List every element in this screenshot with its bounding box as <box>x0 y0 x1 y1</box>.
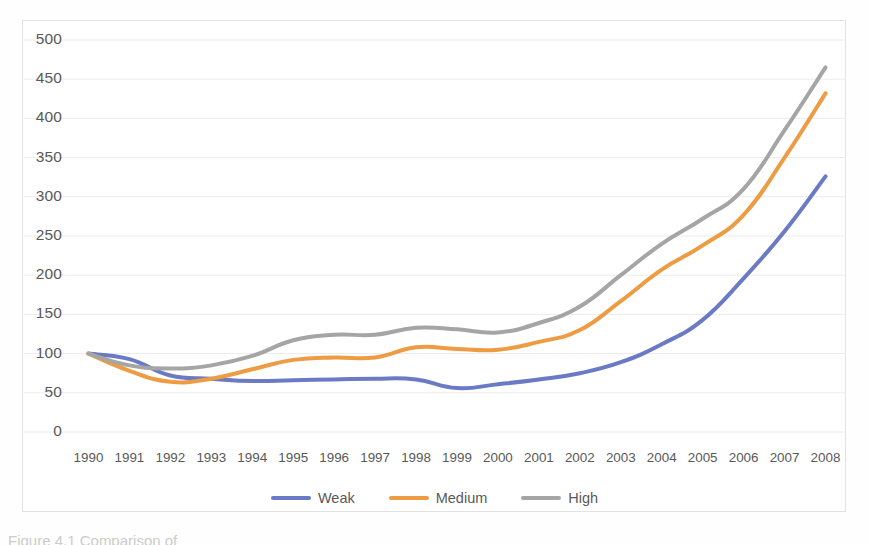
legend-item-high[interactable]: High <box>521 490 598 506</box>
x-tick-label: 2000 <box>476 450 520 465</box>
y-tick-label: 400 <box>18 108 62 126</box>
y-tick-label: 0 <box>18 422 62 440</box>
x-tick-label: 2008 <box>804 450 848 465</box>
x-tick-label: 1999 <box>435 450 479 465</box>
x-tick-label: 1992 <box>148 450 192 465</box>
legend-swatch-icon <box>389 496 429 500</box>
x-tick-label: 2002 <box>558 450 602 465</box>
y-tick-label: 250 <box>18 226 62 244</box>
x-tick-label: 1997 <box>353 450 397 465</box>
x-tick-label: 1996 <box>312 450 356 465</box>
x-tick-label: 1998 <box>394 450 438 465</box>
chart-figure: 050100150200250300350400450500 199019911… <box>0 0 869 545</box>
y-tick-label: 50 <box>18 383 62 401</box>
x-tick-label: 2004 <box>640 450 684 465</box>
y-tick-label: 350 <box>18 148 62 166</box>
y-tick-label: 450 <box>18 69 62 87</box>
figure-caption: Figure 4.1 Comparison of <box>8 532 428 545</box>
y-tick-label: 500 <box>18 30 62 48</box>
y-tick-label: 150 <box>18 304 62 322</box>
chart-plot-frame <box>22 20 846 512</box>
legend-swatch-icon <box>521 496 561 500</box>
legend-label: High <box>568 490 598 506</box>
x-tick-label: 2005 <box>681 450 725 465</box>
x-tick-label: 1991 <box>107 450 151 465</box>
x-tick-label: 1995 <box>271 450 315 465</box>
x-tick-label: 2001 <box>517 450 561 465</box>
x-tick-label: 2006 <box>722 450 766 465</box>
x-tick-label: 1993 <box>189 450 233 465</box>
y-tick-label: 300 <box>18 187 62 205</box>
legend-item-weak[interactable]: Weak <box>271 490 355 506</box>
legend-item-medium[interactable]: Medium <box>389 490 488 506</box>
legend-label: Medium <box>436 490 488 506</box>
x-tick-label: 1994 <box>230 450 274 465</box>
y-tick-label: 200 <box>18 265 62 283</box>
legend-label: Weak <box>318 490 355 506</box>
y-tick-label: 100 <box>18 344 62 362</box>
x-tick-label: 2003 <box>599 450 643 465</box>
x-tick-label: 1990 <box>66 450 110 465</box>
legend-swatch-icon <box>271 496 311 500</box>
x-tick-label: 2007 <box>763 450 807 465</box>
chart-legend: WeakMediumHigh <box>0 490 869 506</box>
